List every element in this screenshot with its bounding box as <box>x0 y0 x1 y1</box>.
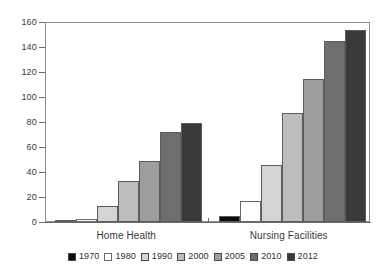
legend-label: 2010 <box>261 252 281 261</box>
bar-2012-nursing-facilities <box>345 30 366 223</box>
legend-label: 1980 <box>115 252 135 261</box>
bar-1990-home-health <box>97 206 118 222</box>
bar-2005-nursing-facilities <box>303 79 324 222</box>
bar-1970-nursing-facilities <box>219 216 240 222</box>
legend-label: 2005 <box>225 252 245 261</box>
y-axis-tick-label: 120 <box>7 68 37 77</box>
legend-item-2012[interactable]: 2012 <box>287 252 318 261</box>
legend-swatch-icon <box>214 253 222 261</box>
group-separator-tick <box>208 218 209 223</box>
bar-1980-nursing-facilities <box>240 201 261 222</box>
bar-2005-home-health <box>139 161 160 222</box>
category-label-home-health: Home Health <box>56 230 196 241</box>
bar-1990-nursing-facilities <box>261 165 282 223</box>
bar-2000-nursing-facilities <box>282 113 303 222</box>
bar-2000-home-health <box>118 181 139 222</box>
y-axis-tick-label: 40 <box>7 168 37 177</box>
legend-item-1970[interactable]: 1970 <box>68 252 99 261</box>
legend-label: 1970 <box>79 252 99 261</box>
y-axis-tick-label: 80 <box>7 118 37 127</box>
legend-swatch-icon <box>177 253 185 261</box>
legend-item-1990[interactable]: 1990 <box>141 252 172 261</box>
bar-2010-home-health <box>160 132 181 222</box>
y-axis-tick-label: 100 <box>7 93 37 102</box>
legend-swatch-icon <box>104 253 112 261</box>
legend-label: 2000 <box>188 252 208 261</box>
bar-2012-home-health <box>181 123 202 222</box>
legend-swatch-icon <box>141 253 149 261</box>
legend-item-2005[interactable]: 2005 <box>214 252 245 261</box>
legend-swatch-icon <box>68 253 76 261</box>
bar-chart: 020406080100120140160 Home HealthNursing… <box>0 0 386 277</box>
legend-label: 1990 <box>152 252 172 261</box>
legend-label: 2012 <box>298 252 318 261</box>
plot-area <box>45 22 370 222</box>
y-axis-tick-label: 160 <box>7 18 37 27</box>
bar-1980-home-health <box>76 219 97 222</box>
bar-1970-home-health <box>55 220 76 222</box>
y-axis-tick-label: 60 <box>7 143 37 152</box>
y-axis-tick-label: 0 <box>7 218 37 227</box>
legend-swatch-icon <box>250 253 258 261</box>
bar-2010-nursing-facilities <box>324 41 345 222</box>
category-label-nursing-facilities: Nursing Facilities <box>219 230 359 241</box>
legend-item-2010[interactable]: 2010 <box>250 252 281 261</box>
x-axis-line <box>39 222 371 223</box>
legend-item-2000[interactable]: 2000 <box>177 252 208 261</box>
y-axis-tick-label: 20 <box>7 193 37 202</box>
chart-legend: 1970198019902000200520102012 <box>0 252 386 261</box>
y-axis-tick <box>39 222 45 223</box>
y-axis-tick-label: 140 <box>7 43 37 52</box>
legend-swatch-icon <box>287 253 295 261</box>
legend-item-1980[interactable]: 1980 <box>104 252 135 261</box>
